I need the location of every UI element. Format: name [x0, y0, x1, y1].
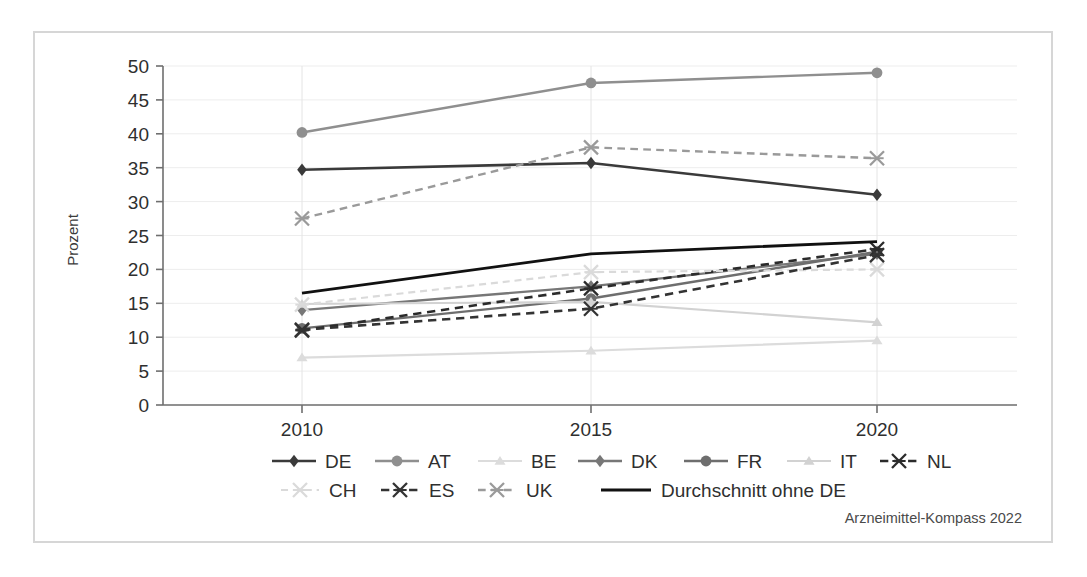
data-point-marker-diamond — [297, 164, 307, 176]
data-point-marker-asterisk — [490, 483, 504, 497]
x-tick-label: 2020 — [856, 419, 898, 440]
legend-label: DE — [325, 451, 351, 472]
line-chart: 05101520253035404550 201020152020 DEATBE… — [0, 0, 1087, 577]
data-point-marker-asterisk — [892, 454, 906, 468]
legend-label: CH — [329, 480, 356, 501]
data-point-marker-circle — [701, 456, 712, 467]
chart-legend: DEATBEDKFRITNLCHESUKDurchschnitt ohne DE — [272, 451, 951, 501]
legend-item-dk[interactable]: DK — [578, 451, 658, 472]
series-be — [296, 335, 882, 361]
y-tick-labels: 05101520253035404550 — [128, 56, 149, 416]
series-nl — [295, 242, 884, 337]
y-tick-label: 30 — [128, 192, 149, 213]
y-tick-label: 5 — [138, 361, 149, 382]
series-line — [302, 147, 877, 218]
legend-item-durchschnitt-ohne-de[interactable]: Durchschnitt ohne DE — [601, 480, 846, 501]
y-axis-title: Prozent — [64, 213, 81, 266]
legend-label: Durchschnitt ohne DE — [661, 480, 846, 501]
data-point-marker-asterisk — [293, 483, 307, 497]
x-tick-label: 2015 — [570, 419, 612, 440]
legend-label: AT — [428, 451, 451, 472]
series-uk — [295, 140, 884, 225]
chart-figure: 05101520253035404550 201020152020 DEATBE… — [0, 0, 1087, 577]
y-tick-label: 40 — [128, 124, 149, 145]
series-layer — [295, 67, 884, 361]
legend-item-fr[interactable]: FR — [684, 451, 762, 472]
legend-label: IT — [840, 451, 857, 472]
data-point-marker-asterisk — [393, 483, 407, 497]
legend-item-be[interactable]: BE — [478, 451, 556, 472]
legend-item-it[interactable]: IT — [787, 451, 857, 472]
legend-item-at[interactable]: AT — [375, 451, 451, 472]
legend-label: NL — [927, 451, 951, 472]
series-at — [297, 67, 883, 137]
legend-item-de[interactable]: DE — [272, 451, 351, 472]
y-tick-label: 10 — [128, 327, 149, 348]
data-point-marker-diamond — [289, 455, 299, 467]
data-point-marker-diamond — [595, 455, 605, 467]
legend-item-ch[interactable]: CH — [281, 480, 356, 501]
data-point-marker-circle — [872, 67, 883, 78]
y-tick-label: 35 — [128, 158, 149, 179]
legend-item-uk[interactable]: UK — [478, 480, 553, 501]
data-point-marker-circle — [392, 456, 403, 467]
data-point-marker-circle — [297, 127, 308, 138]
x-tick-labels: 201020152020 — [281, 419, 898, 440]
legend-label: ES — [429, 480, 454, 501]
y-tick-label: 50 — [128, 56, 149, 77]
data-point-marker-diamond — [872, 189, 882, 201]
y-tick-label: 45 — [128, 90, 149, 111]
y-tick-label: 15 — [128, 293, 149, 314]
legend-label: DK — [631, 451, 658, 472]
source-caption: Arzneimittel-Kompass 2022 — [845, 510, 1022, 526]
legend-label: BE — [531, 451, 556, 472]
x-tick-label: 2010 — [281, 419, 323, 440]
y-tick-label: 20 — [128, 259, 149, 280]
legend-label: FR — [737, 451, 762, 472]
axes — [156, 66, 1017, 413]
y-tick-label: 25 — [128, 226, 149, 247]
legend-label: UK — [526, 480, 553, 501]
legend-item-es[interactable]: ES — [381, 480, 454, 501]
y-tick-label: 0 — [138, 395, 149, 416]
legend-item-nl[interactable]: NL — [880, 451, 951, 472]
series-de — [297, 157, 882, 201]
data-point-marker-circle — [586, 78, 597, 89]
